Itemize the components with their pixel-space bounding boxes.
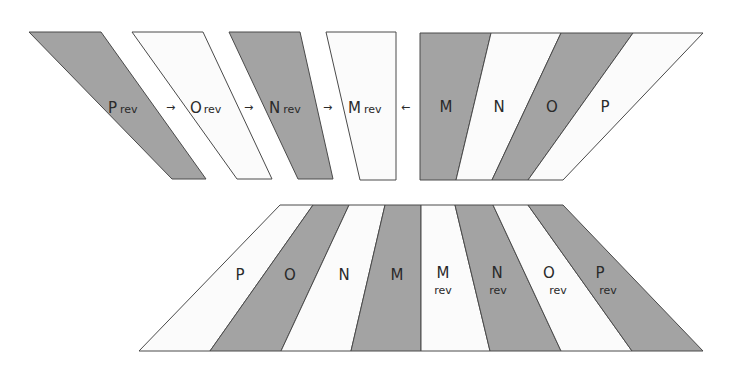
label-m-rev-suffix: rev xyxy=(434,284,452,297)
strip-m-rev xyxy=(326,32,396,180)
arrow-right-icon: → xyxy=(244,101,253,114)
arrow-right-icon: → xyxy=(323,101,332,114)
label-p-rev-suffix: rev xyxy=(599,284,617,297)
label-p: P xyxy=(235,266,244,284)
label-n: N xyxy=(338,266,349,284)
label-m-rev: M xyxy=(437,264,450,282)
label-n-rev: N xyxy=(491,264,502,282)
arrow-right-icon: → xyxy=(166,101,175,114)
strip-diagram: Prev Orev Nrev Mrev → → → ← M N O P P O … xyxy=(0,0,737,367)
label-m: M xyxy=(391,266,404,284)
label-o: O xyxy=(546,98,558,116)
label-n: N xyxy=(493,98,504,116)
label-o: O xyxy=(284,266,296,284)
top-right-original-group: M N O P xyxy=(420,33,703,180)
top-left-reversed-group: Prev Orev Nrev Mrev → → → xyxy=(29,32,396,180)
bottom-combined-group: P O N M M rev N rev O rev P rev xyxy=(139,205,703,351)
arrow-left-icon: ← xyxy=(401,101,410,114)
label-n-rev-suffix: rev xyxy=(489,284,507,297)
label-o-rev: O xyxy=(543,264,555,282)
label-m: M xyxy=(440,98,453,116)
label-p-rev: P xyxy=(595,264,604,282)
label-o-rev-suffix: rev xyxy=(549,284,567,297)
label-p: P xyxy=(600,98,609,116)
